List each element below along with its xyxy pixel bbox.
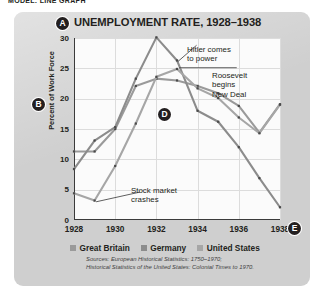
- line-graph-model-figure: MODEL: LINE GRAPH A B D E UNEMPLOYMENT R…: [0, 0, 324, 297]
- legend-label: Great Britain: [80, 243, 130, 253]
- y-tick-label: 10: [35, 155, 69, 164]
- data-point-marker: [197, 87, 199, 89]
- annotation-roosevelt-line1: Roosevelt: [212, 71, 247, 80]
- data-point-marker: [279, 206, 281, 208]
- legend-item: United States: [197, 243, 260, 253]
- annotation-roosevelt-line2: begins: [212, 80, 247, 89]
- y-tick-label: 30: [35, 34, 69, 43]
- annotation-hitler-line1: Hitler comes: [187, 45, 231, 54]
- annotation-stock-line1: Stock market: [131, 186, 177, 195]
- data-point-marker: [176, 59, 178, 61]
- data-point-marker: [94, 199, 96, 201]
- y-tick-label: 25: [35, 64, 69, 73]
- legend-swatch-icon: [141, 245, 147, 251]
- annotation-hitler-line2: to power: [187, 54, 231, 63]
- data-point-marker: [155, 76, 157, 78]
- legend-item: Great Britain: [70, 243, 130, 253]
- legend-label: United States: [207, 243, 260, 253]
- data-point-marker: [197, 110, 199, 112]
- data-point-marker: [73, 192, 75, 194]
- annotation-stock-market: Stock market crashes: [131, 186, 177, 205]
- sources-line-1: Sources: European Historical Statistics:…: [86, 256, 254, 264]
- gridline-vertical: [280, 38, 281, 220]
- data-point-marker: [279, 104, 281, 106]
- callout-b-yaxis: B: [32, 98, 45, 111]
- model-header: MODEL: LINE GRAPH: [8, 0, 86, 4]
- data-point-marker: [155, 36, 157, 38]
- x-tick-label: 1934: [178, 224, 218, 234]
- callout-d-plot: D: [158, 108, 171, 121]
- data-point-marker: [258, 177, 260, 179]
- x-tick-label: 1930: [95, 224, 135, 234]
- x-tick-label: 1932: [136, 224, 176, 234]
- data-point-marker: [238, 105, 240, 107]
- annotation-stock-line2: crashes: [131, 195, 177, 204]
- x-tick-label: 1936: [219, 224, 259, 234]
- annotation-hitler: Hitler comes to power: [187, 45, 231, 64]
- data-point-marker: [73, 150, 75, 152]
- legend-item: Germany: [141, 243, 186, 253]
- legend-label: Germany: [150, 243, 186, 253]
- y-tick-label: 5: [35, 185, 69, 194]
- sources-line-2: Historical Statistics of the United Stat…: [86, 264, 254, 272]
- series-line: [74, 79, 280, 152]
- data-point-marker: [114, 126, 116, 128]
- annotation-roosevelt-line3: New Deal: [212, 90, 247, 99]
- x-tick-label: 1928: [54, 224, 94, 234]
- callout-a-title: A: [56, 17, 69, 30]
- data-point-marker: [135, 122, 137, 124]
- annotation-roosevelt: Roosevelt begins New Deal: [212, 71, 247, 99]
- data-point-marker: [135, 85, 137, 87]
- legend-swatch-icon: [70, 245, 76, 251]
- data-point-marker: [135, 78, 137, 80]
- data-point-marker: [176, 79, 178, 81]
- data-point-marker: [114, 165, 116, 167]
- callout-e-xaxis: E: [288, 222, 301, 235]
- data-point-marker: [94, 150, 96, 152]
- data-point-marker: [238, 146, 240, 148]
- chart-title: UNEMPLOYMENT RATE, 1928–1938: [74, 16, 261, 28]
- data-point-marker: [94, 139, 96, 141]
- data-point-marker: [238, 116, 240, 118]
- legend-swatch-icon: [197, 245, 203, 251]
- data-point-marker: [217, 121, 219, 123]
- data-point-marker: [73, 168, 75, 170]
- data-point-marker: [176, 68, 178, 70]
- y-tick-label: 15: [35, 125, 69, 134]
- data-point-marker: [258, 132, 260, 134]
- sources-note: Sources: European Historical Statistics:…: [86, 256, 254, 271]
- legend: Great BritainGermanyUnited States: [70, 243, 260, 253]
